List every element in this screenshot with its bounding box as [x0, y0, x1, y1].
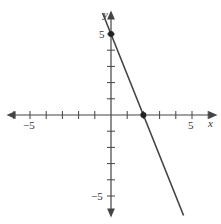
x-axis-label: x [208, 118, 213, 129]
coordinate-plane [0, 0, 221, 224]
x-tick-label-neg5: −5 [23, 120, 35, 131]
y-axis-label: y [103, 9, 108, 20]
y-tick-label-5: 5 [99, 29, 105, 40]
y-tick-label-neg5: −5 [91, 191, 103, 202]
x-tick-label-5: 5 [188, 120, 194, 131]
y-axis [108, 12, 114, 216]
x-axis [8, 112, 216, 118]
